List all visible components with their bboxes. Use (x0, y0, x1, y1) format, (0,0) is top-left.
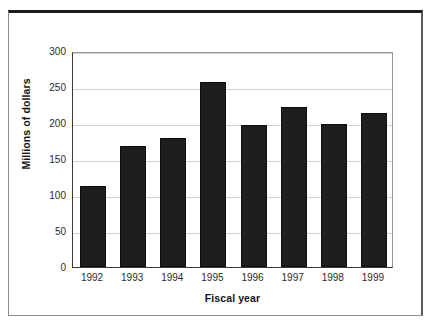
bar-slot (234, 53, 274, 267)
bar[interactable] (241, 125, 267, 267)
bar-slot (153, 53, 193, 267)
bar[interactable] (361, 113, 387, 267)
bar[interactable] (281, 107, 307, 267)
x-axis-tick-label: 1998 (313, 272, 353, 284)
bar[interactable] (80, 186, 106, 267)
bar[interactable] (200, 82, 226, 267)
bar-slot (113, 53, 153, 267)
x-axis-tick-label: 1996 (233, 272, 273, 284)
bar-chart-figure: 050100150200250300 199219931994199519961… (0, 0, 431, 327)
x-axis-tick-label: 1995 (192, 272, 232, 284)
y-axis-title: Millions of dollars (20, 54, 32, 194)
y-axis-tick-label: 100 (10, 191, 66, 201)
y-axis-tick-label: 300 (10, 47, 66, 57)
y-axis-tick-label: 150 (10, 155, 66, 165)
bars-layer (73, 53, 392, 267)
x-axis-title: Fiscal year (72, 292, 393, 304)
bar-slot (314, 53, 354, 267)
bar-slot (274, 53, 314, 267)
y-axis-tick-label: 250 (10, 83, 66, 93)
y-axis-tick-labels: 050100150200250300 (8, 52, 66, 268)
y-axis-tick-label: 200 (10, 119, 66, 129)
x-axis-tick-label: 1992 (72, 272, 112, 284)
x-axis-tick-label: 1999 (353, 272, 393, 284)
y-axis-tick-label: 50 (10, 227, 66, 237)
bar[interactable] (120, 146, 146, 267)
y-axis-tick-label: 0 (10, 263, 66, 273)
x-axis-tick-labels: 19921993199419951996199719981999 (72, 272, 393, 286)
bar[interactable] (321, 124, 347, 267)
x-axis-tick-label: 1994 (152, 272, 192, 284)
plot-area (72, 52, 393, 268)
x-axis-tick-label: 1993 (112, 272, 152, 284)
bar-slot (73, 53, 113, 267)
bar-slot (354, 53, 394, 267)
bar-slot (193, 53, 233, 267)
bar[interactable] (160, 138, 186, 267)
x-axis-tick-label: 1997 (273, 272, 313, 284)
